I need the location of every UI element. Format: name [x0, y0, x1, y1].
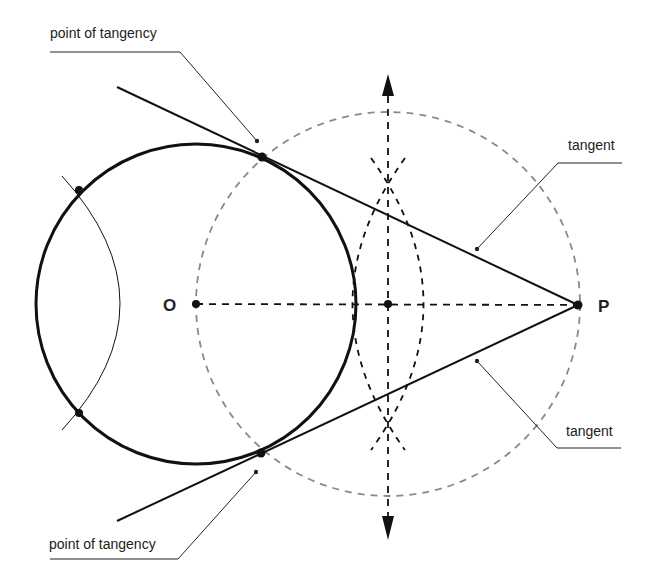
label-p: P — [598, 297, 609, 316]
point-arc-intersection-top — [75, 186, 83, 194]
tangent-line-top — [117, 87, 578, 305]
point-o — [192, 300, 200, 308]
label-tangent-top: tangent — [568, 137, 615, 153]
leader-tangent-top — [475, 163, 622, 251]
label-point-of-tangency-top: point of tangency — [50, 25, 157, 41]
label-tangent-bottom: tangent — [566, 423, 613, 439]
point-p — [574, 301, 583, 310]
leader-point-of-tangency-top — [50, 52, 259, 143]
arrow-down-icon — [382, 516, 394, 540]
label-point-of-tangency-bottom: point of tangency — [49, 536, 156, 552]
point-tangency-bottom — [257, 449, 266, 458]
arrow-up-icon — [382, 74, 394, 96]
point-m — [384, 300, 392, 308]
tangent-construction-diagram: point of tangency point of tangency tang… — [0, 0, 660, 584]
tangent-line-bottom — [117, 305, 578, 521]
point-tangency-top — [258, 153, 267, 162]
point-arc-intersection-bottom — [75, 409, 83, 417]
label-o: O — [163, 296, 176, 315]
left-construction-arc — [62, 176, 120, 430]
